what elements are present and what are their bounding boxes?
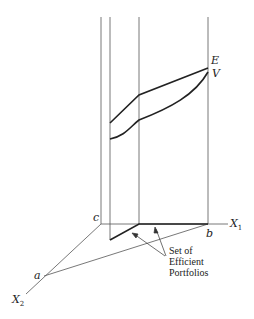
expected-return-curve (110, 68, 208, 123)
label-b: b (206, 228, 213, 239)
label-X1: X1 (230, 218, 242, 232)
label-c: c (93, 212, 99, 223)
label-V: V (212, 68, 220, 79)
arrow-head-2 (154, 227, 158, 233)
label-E: E (211, 55, 219, 66)
label-X2: X2 (12, 294, 24, 308)
label-a: a (34, 270, 41, 281)
arrow-head-1 (132, 233, 138, 238)
efficient-portfolios-annotation: Set of Efficient Portfolios (169, 245, 208, 278)
arrow-line-1 (134, 234, 165, 256)
x2-axis (26, 224, 101, 294)
variance-curve (110, 72, 208, 139)
